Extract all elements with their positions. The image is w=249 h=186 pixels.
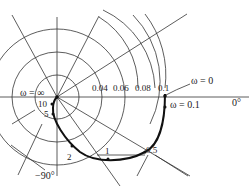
zero-degree-label: 0° [232, 97, 241, 108]
circle-label-0.06: 0.06 [113, 83, 129, 93]
freq-label-2: 2 [67, 152, 72, 162]
freq-label-1: 1 [105, 146, 110, 156]
minus-90-degree-label: −90° [35, 170, 55, 181]
freq-label-5: 5 [44, 109, 49, 119]
omega-zero-leader [166, 84, 190, 95]
omega-0.1-label: ω = 0.1 [170, 99, 200, 110]
omega-infinity-label: ω = ∞ [20, 87, 44, 98]
scale-arcs [99, 10, 166, 124]
omega-zero-label: ω = 0 [191, 75, 213, 86]
polar-plot-diagram: ω = ∞ ω = 0 ω = 0.1 0° −90° 0.04 0.06 0.… [0, 0, 249, 186]
freq-label-0.5: 0.5 [146, 145, 158, 155]
freq-label-10: 10 [38, 99, 48, 109]
circle-label-0.04: 0.04 [92, 83, 108, 93]
circle-label-0.08: 0.08 [135, 83, 151, 93]
circle-label-0.1: 0.1 [158, 83, 169, 93]
lower-grid-segments [11, 110, 188, 176]
